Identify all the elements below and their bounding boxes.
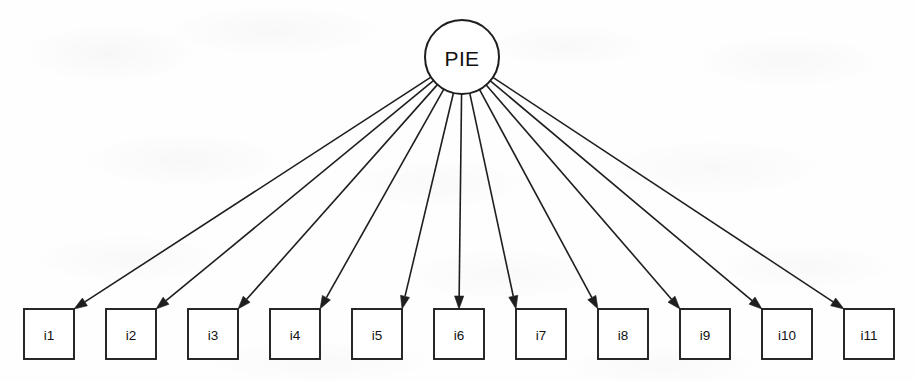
edge-pie-to-i1 xyxy=(85,77,431,302)
arrowhead-pie-to-i5 xyxy=(401,295,410,309)
edge-pie-to-i6 xyxy=(459,94,461,296)
indicator-node-i3[interactable]: i3 xyxy=(188,309,238,359)
indicator-node-i6[interactable]: i6 xyxy=(434,309,484,359)
edges-layer xyxy=(74,77,844,309)
arrowhead-pie-to-i8 xyxy=(588,295,598,309)
indicator-label-i6: i6 xyxy=(454,328,465,343)
indicator-node-i1[interactable]: i1 xyxy=(24,309,74,359)
indicator-label-i5: i5 xyxy=(372,328,383,343)
path-diagram-svg: i1i2i3i4i5i6i7i8i9i10i11PIE xyxy=(0,0,916,381)
arrowhead-pie-to-i6 xyxy=(455,296,464,309)
edge-pie-to-i5 xyxy=(405,93,453,296)
indicator-label-i3: i3 xyxy=(208,328,219,343)
indicator-node-i7[interactable]: i7 xyxy=(516,309,566,359)
nodes-layer: i1i2i3i4i5i6i7i8i9i10i11PIE xyxy=(24,20,894,359)
diagram-canvas: i1i2i3i4i5i6i7i8i9i10i11PIE xyxy=(0,0,916,381)
latent-label-pie: PIE xyxy=(444,47,479,70)
arrowhead-pie-to-i7 xyxy=(509,295,518,309)
indicator-node-i4[interactable]: i4 xyxy=(270,309,320,359)
indicator-label-i10: i10 xyxy=(778,328,796,343)
arrowhead-pie-to-i1 xyxy=(74,298,87,309)
arrowhead-pie-to-i4 xyxy=(320,295,330,309)
edge-pie-to-i9 xyxy=(486,85,671,299)
indicator-label-i4: i4 xyxy=(290,328,301,343)
edge-pie-to-i2 xyxy=(166,81,433,301)
arrowhead-pie-to-i11 xyxy=(831,298,844,309)
indicator-label-i11: i11 xyxy=(860,328,877,343)
edge-pie-to-i3 xyxy=(247,85,438,300)
indicator-node-i11[interactable]: i11 xyxy=(844,309,894,359)
indicator-node-i2[interactable]: i2 xyxy=(106,309,156,359)
indicator-label-i1: i1 xyxy=(44,328,55,343)
edge-pie-to-i11 xyxy=(493,77,833,301)
indicator-label-i2: i2 xyxy=(126,328,137,343)
indicator-label-i8: i8 xyxy=(618,328,629,343)
indicator-node-i9[interactable]: i9 xyxy=(680,309,730,359)
indicator-node-i5[interactable]: i5 xyxy=(352,309,402,359)
edge-pie-to-i7 xyxy=(470,93,514,296)
edge-pie-to-i10 xyxy=(490,81,752,301)
indicator-label-i7: i7 xyxy=(536,328,547,343)
indicator-label-i9: i9 xyxy=(700,328,711,343)
indicator-node-i8[interactable]: i8 xyxy=(598,309,648,359)
indicator-node-i10[interactable]: i10 xyxy=(762,309,812,359)
edge-pie-to-i8 xyxy=(480,90,592,298)
latent-node-pie[interactable]: PIE xyxy=(425,20,499,94)
